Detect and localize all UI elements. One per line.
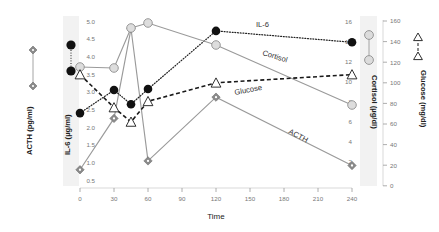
chart-svg: ACTH (pg/ml) IL-6 (µg/ml) 5.0 4.5 4.0 3.…	[0, 0, 439, 232]
series-label-acth: ACTH	[287, 127, 309, 145]
acth-axis-title: ACTH (pg/ml)	[25, 106, 34, 155]
cortisol-axis-title: Cortisol (µg/dl)	[370, 75, 379, 129]
glucose-tick-20: 20	[390, 162, 397, 169]
x-tick-90: 90	[179, 195, 186, 202]
x-tick-30: 30	[111, 195, 118, 202]
glucose-legend-marker-bottom	[414, 52, 423, 60]
cortisol-tick-16: 16	[345, 18, 352, 25]
acth-legend-marker-top	[29, 46, 37, 54]
cortisol-tick-4: 4	[349, 138, 353, 145]
x-tick-180: 180	[279, 195, 290, 202]
il6-legend-marker-top	[66, 40, 75, 49]
series-label-il6: IL-6	[256, 20, 269, 29]
il6-tick-2-0: 2.0	[86, 124, 95, 131]
il6-tick-4-5: 4.5	[86, 35, 95, 42]
il6-tick-4-0: 4.0	[86, 53, 95, 60]
markers-il-6	[76, 27, 357, 118]
glucose-tick-60: 60	[390, 120, 397, 127]
glucose-axis-group: 160 140 120 100 80 60 40 20 0 Glucose (m…	[383, 17, 428, 189]
acth-legend-marker-bottom	[29, 82, 37, 90]
il6-tick-3-5: 3.5	[86, 71, 95, 78]
cortisol-legend-marker-top	[365, 31, 374, 40]
glucose-tick-160: 160	[390, 17, 401, 24]
x-axis-title: Time	[207, 212, 225, 221]
glucose-tick-140: 140	[390, 38, 401, 45]
series-il-6	[76, 27, 357, 118]
glucose-tick-120: 120	[390, 59, 401, 66]
glucose-axis-title: Glucose (mg/dl)	[419, 70, 428, 128]
x-tick-240: 240	[347, 195, 358, 202]
il6-axis-title: IL-6 (µg/ml)	[63, 114, 72, 155]
il6-tick-0-5: 0.5	[86, 177, 95, 184]
glucose-tick-80: 80	[390, 100, 397, 107]
cortisol-tick-6: 6	[349, 118, 353, 125]
series-label-cortisol: Cortisol	[261, 48, 289, 64]
series-annotations: IL-6 Cortisol Glucose ACTH	[234, 20, 310, 144]
series-layer	[75, 19, 357, 174]
chart-figure: ACTH (pg/ml) IL-6 (µg/ml) 5.0 4.5 4.0 3.…	[0, 0, 439, 232]
il6-tick-1-0: 1.0	[86, 159, 95, 166]
x-axis-group: 0 30 60 90 120 150 180 210 240 Time	[78, 188, 357, 221]
x-tick-0: 0	[78, 195, 82, 202]
cortisol-legend-marker-bottom	[365, 56, 374, 65]
il6-legend-marker-bottom	[66, 66, 75, 75]
glucose-legend-marker-top	[414, 33, 423, 41]
glucose-tick-0: 0	[390, 182, 394, 189]
x-tick-150: 150	[245, 195, 256, 202]
x-tick-210: 210	[313, 195, 324, 202]
glucose-tick-100: 100	[390, 79, 401, 86]
il6-tick-2-5: 2.5	[86, 106, 95, 113]
glucose-tick-40: 40	[390, 141, 397, 148]
x-tick-120: 120	[211, 195, 222, 202]
acth-axis-group: ACTH (pg/ml)	[25, 46, 37, 155]
il6-tick-5-0: 5.0	[86, 18, 95, 25]
series-label-glucose: Glucose	[234, 83, 263, 97]
x-tick-60: 60	[145, 195, 152, 202]
cortisol-tick-12: 12	[345, 58, 352, 65]
